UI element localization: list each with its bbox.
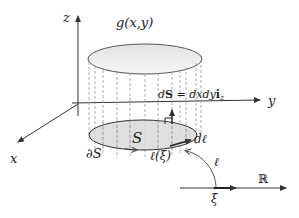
curve-map-label: ℓ bbox=[214, 155, 219, 169]
region-label: S bbox=[132, 129, 142, 147]
boundary-label: ∂S bbox=[86, 146, 102, 161]
x-axis-label: x bbox=[10, 151, 18, 166]
parameter-label: ξ bbox=[211, 192, 219, 206]
diagram-svg: z y x g(x,y) dS = dxdyiz S ∂S dℓ ℓ(ξ) ℓ … bbox=[0, 0, 299, 218]
real-line-label: ℝ bbox=[258, 172, 269, 186]
y-axis-label: y bbox=[267, 93, 276, 108]
real-line bbox=[180, 187, 286, 190]
line-element-label: dℓ bbox=[194, 132, 207, 146]
top-surface-label: g(x,y) bbox=[116, 15, 153, 30]
curve-param-label: ℓ(ξ) bbox=[150, 149, 171, 163]
top-surface bbox=[88, 44, 202, 74]
region-S bbox=[89, 120, 197, 150]
z-axis-label: z bbox=[62, 10, 70, 25]
surface-element-label: dS = dxdyiz bbox=[158, 88, 225, 102]
curve-map-arrow bbox=[186, 151, 216, 188]
x-axis bbox=[18, 104, 78, 142]
diagram-canvas: z y x g(x,y) dS = dxdyiz S ∂S dℓ ℓ(ξ) ℓ … bbox=[0, 0, 299, 218]
